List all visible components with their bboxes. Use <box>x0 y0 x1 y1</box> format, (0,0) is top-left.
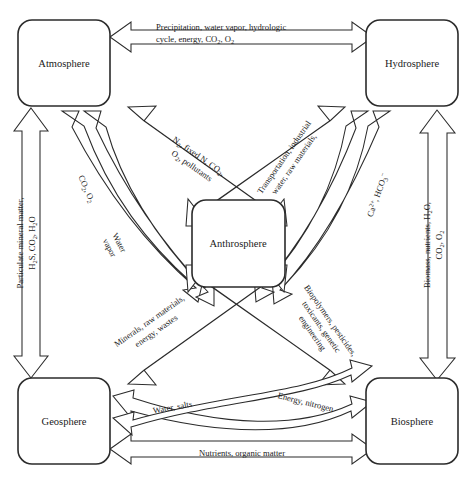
flow-label-precipitation-line1: Precipitation, water vapor, hydrologic <box>156 22 286 32</box>
flow-label-precipitation-line2: cycle, energy, CO2, O2 <box>156 34 234 45</box>
node-label-anthrosphere: Anthrosphere <box>209 238 266 249</box>
flow-label-nutrients-organic-matter: Nutrients, organic matter <box>199 448 285 458</box>
flow-label-energy-nitrogen: Energy, nitrogen <box>277 390 335 414</box>
node-label-biosphere: Biosphere <box>391 416 434 427</box>
environmental-spheres-diagram: Atmosphere Hydrosphere Geosphere Biosphe… <box>0 0 473 489</box>
flow-label-co2-o2: CO2, O2 <box>75 174 97 205</box>
node-label-atmosphere: Atmosphere <box>38 58 90 69</box>
arrow-anthrosphere-to-atmosphere-co2o2 <box>62 111 204 302</box>
node-label-hydrosphere: Hydrosphere <box>385 58 440 69</box>
flow-label-ca-hco3: Ca2+, HCO3− <box>364 171 391 218</box>
flow-label-biomass-line2: CO2, O2 <box>434 231 445 260</box>
node-label-geosphere: Geosphere <box>42 416 87 427</box>
flow-label-particulate-line1: Particulate mineral matter, <box>15 197 25 288</box>
flow-label-biomass-line1: Biomass, nutrients, H2O, <box>422 202 433 288</box>
